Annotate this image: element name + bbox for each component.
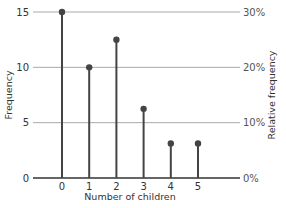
y-right-tick-label: 20% bbox=[243, 62, 265, 73]
y-tick-label: 10 bbox=[16, 62, 29, 73]
stem-dot-0 bbox=[59, 9, 65, 15]
y-right-tick-label: 0% bbox=[243, 173, 259, 184]
gridlines bbox=[33, 12, 240, 123]
stem-dot-5 bbox=[195, 140, 201, 146]
tick-labels: 0510150%10%20%30%012345 bbox=[16, 7, 265, 193]
x-axis-label: Number of children bbox=[84, 191, 175, 202]
stems bbox=[59, 9, 201, 178]
stem-dot-4 bbox=[168, 140, 174, 146]
x-tick-label: 0 bbox=[59, 181, 65, 192]
y-tick-label: 5 bbox=[23, 117, 29, 128]
y-axis-right-label: Relative frequency bbox=[266, 50, 277, 139]
y-right-tick-label: 30% bbox=[243, 7, 265, 18]
y-tick-label: 15 bbox=[16, 7, 29, 18]
stem-chart: 0510150%10%20%30%012345 Number of childr… bbox=[0, 0, 286, 208]
y-right-tick-label: 10% bbox=[243, 117, 265, 128]
x-tick-label: 5 bbox=[195, 181, 201, 192]
stem-dot-2 bbox=[113, 36, 119, 42]
y-axis-label: Frequency bbox=[3, 70, 14, 119]
y-tick-label: 0 bbox=[23, 173, 29, 184]
stem-dot-1 bbox=[86, 64, 92, 70]
stem-dot-3 bbox=[140, 106, 146, 112]
